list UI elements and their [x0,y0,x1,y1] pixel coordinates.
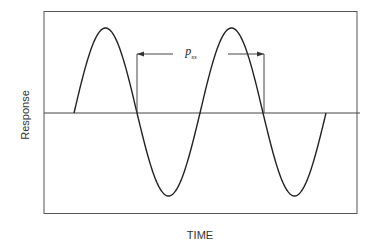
arrowhead-left-icon [137,52,144,57]
period-label-subscript: ss [191,53,196,61]
period-label: pss [185,44,196,60]
y-axis-label: Response [19,90,31,140]
chart-canvas [0,0,376,241]
period-annotation [137,52,264,114]
response-curve [74,28,326,196]
x-axis-label: TIME [187,229,213,241]
arrowhead-right-icon [257,52,264,57]
